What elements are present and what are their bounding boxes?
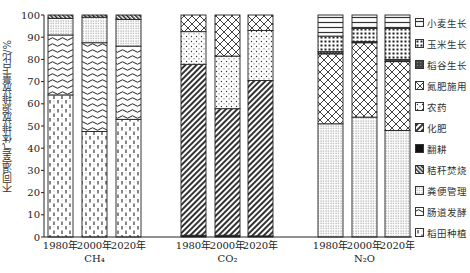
legend-label: 化肥 [427, 121, 447, 135]
stacked-bar [116, 15, 141, 237]
y-tick-label: 10 [27, 209, 40, 220]
stacked-bar [318, 15, 343, 237]
y-axis-label: 不同温室气体排放源排放量占比/% [2, 40, 16, 193]
bar-segment [116, 46, 141, 119]
bar-segment [48, 95, 73, 237]
bar-segment [181, 32, 206, 65]
legend-swatch-icon [415, 228, 424, 237]
bar-segment [215, 56, 240, 109]
stacked-bar-chart: 1980年2000年2020年CH₄1980年2000年2020年CO₂1980… [0, 0, 470, 273]
bar-segment [48, 15, 73, 18]
bar-segment [385, 28, 410, 59]
legend-label: 玉米生长 [427, 37, 467, 51]
legend-swatch-icon [415, 60, 424, 69]
y-tick-label: 100 [21, 10, 40, 21]
bar-segment [181, 15, 206, 32]
bar-segment [352, 28, 377, 41]
legend-swatch-icon [415, 18, 424, 27]
bar-segment [48, 18, 73, 35]
legend-label: 氮肥施用 [427, 79, 467, 93]
y-tick-label: 80 [27, 54, 40, 65]
legend-label: 翻耕 [427, 142, 447, 156]
bar-segment [318, 15, 343, 36]
bar-segment [352, 15, 377, 28]
bar-segment [116, 119, 141, 237]
bar-segment [352, 43, 377, 117]
chart-canvas: 1980年2000年2020年CH₄1980年2000年2020年CO₂1980… [0, 0, 470, 273]
bar-segment [248, 31, 273, 81]
legend-swatch-icon [415, 186, 424, 195]
legend-label: 秸秆焚烧 [427, 163, 467, 177]
y-tick-label: 30 [27, 165, 40, 176]
bar-segment [318, 124, 343, 237]
bar-segment [82, 17, 107, 43]
legend-item: 稻谷生长 [415, 54, 470, 75]
stacked-bar [181, 15, 206, 237]
x-tick-label: 1980年 [313, 239, 348, 251]
bar-segment [181, 64, 206, 235]
legend-label: 稻谷生长 [427, 58, 467, 72]
legend-label: 稻田种植 [427, 226, 467, 240]
legend-item: 秸秆焚烧 [415, 159, 470, 180]
bar-segment [318, 54, 343, 124]
stacked-bar [48, 15, 73, 237]
x-tick-label: 1980年 [43, 239, 78, 251]
bar-segment [248, 15, 273, 31]
y-tick-label: 70 [27, 76, 40, 87]
group-label: CH₄ [84, 253, 104, 264]
legend-swatch-icon [415, 207, 424, 216]
legend-label: 粪便管理 [427, 184, 467, 198]
y-tick-label: 50 [27, 121, 40, 132]
stacked-bar [352, 15, 377, 237]
x-tick-label: 2000年 [77, 239, 112, 251]
bar-segment [48, 35, 73, 95]
y-tick-label: 60 [27, 98, 40, 109]
bar-segment [82, 15, 107, 17]
legend-item: 粪便管理 [415, 180, 470, 201]
bar-segment [385, 62, 410, 131]
legend-swatch-icon [415, 81, 424, 90]
legend-swatch-icon [415, 39, 424, 48]
legend-item: 化肥 [415, 117, 470, 138]
legend-item: 小麦生长 [415, 12, 470, 33]
legend-item: 农药 [415, 96, 470, 117]
x-tick-label: 2000年 [210, 239, 245, 251]
bar-segment [215, 109, 240, 236]
legend-item: 玉米生长 [415, 33, 470, 54]
bar-segment [116, 15, 141, 19]
legend-item: 翻耕 [415, 138, 470, 159]
bar-segment [215, 15, 240, 56]
stacked-bar [385, 15, 410, 237]
legend-swatch-icon [415, 102, 424, 111]
legend: 小麦生长玉米生长稻谷生长氮肥施用农药化肥翻耕秸秆焚烧粪便管理肠道发酵稻田种植 [415, 12, 470, 243]
legend-item: 氮肥施用 [415, 75, 470, 96]
y-tick-label: 90 [27, 32, 40, 43]
group-label: CO₂ [218, 253, 238, 264]
bar-segment [385, 130, 410, 237]
x-tick-label: 2000年 [347, 239, 382, 251]
legend-label: 农药 [427, 100, 447, 114]
legend-swatch-icon [415, 165, 424, 174]
bars-layer [48, 15, 410, 237]
legend-item: 稻田种植 [415, 222, 470, 243]
group-label: N₂O [354, 253, 375, 264]
stacked-bar [82, 15, 107, 237]
stacked-bar [215, 15, 240, 237]
bar-segment [82, 132, 107, 237]
bar-segment [248, 80, 273, 235]
x-tick-label: 2020年 [380, 239, 415, 251]
x-tick-label: 2020年 [243, 239, 278, 251]
legend-label: 小麦生长 [427, 16, 467, 30]
bar-segment [116, 19, 141, 46]
y-tick-label: 20 [27, 187, 40, 198]
bar-segment [318, 36, 343, 52]
legend-swatch-icon [415, 144, 424, 153]
legend-label: 肠道发酵 [427, 205, 467, 219]
bar-segment [352, 117, 377, 237]
y-tick-label: 40 [27, 143, 40, 154]
y-tick-label: 0 [34, 232, 40, 243]
legend-item: 肠道发酵 [415, 201, 470, 222]
bar-segment [385, 15, 410, 28]
x-tick-label: 2020年 [111, 239, 146, 251]
stacked-bar [248, 15, 273, 237]
